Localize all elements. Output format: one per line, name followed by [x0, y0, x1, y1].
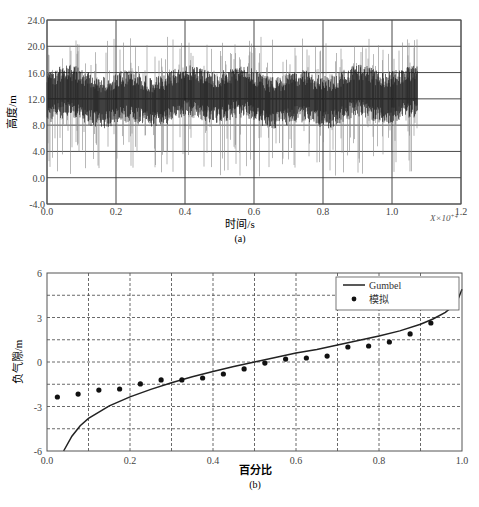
- svg-text:12.0: 12.0: [28, 94, 46, 105]
- svg-text:24.0: 24.0: [28, 15, 46, 26]
- chart-a-xscale: X×10+4: [429, 213, 458, 223]
- data-point: [387, 339, 392, 344]
- chart-a-signal-dark: [47, 65, 418, 129]
- chart-b-ylabel: 负气隙/m: [11, 339, 24, 384]
- data-point: [117, 386, 122, 391]
- svg-text:0.0: 0.0: [33, 173, 46, 184]
- svg-text:0: 0: [37, 357, 42, 368]
- data-point: [159, 377, 164, 382]
- chart-b-xlabel: 百分比: [239, 463, 272, 476]
- svg-text:0.2: 0.2: [124, 455, 137, 466]
- figure: -4.00.04.08.012.016.020.024.0 0.00.20.40…: [0, 0, 479, 507]
- svg-text:16.0: 16.0: [28, 68, 46, 79]
- data-point: [55, 394, 60, 399]
- svg-text:0.2: 0.2: [110, 206, 123, 217]
- legend-gumbel-label: Gumbel: [369, 280, 401, 291]
- svg-text:0.8: 0.8: [373, 455, 386, 466]
- data-point: [283, 356, 288, 361]
- svg-text:8.0: 8.0: [33, 120, 46, 131]
- data-point: [76, 391, 81, 396]
- legend-sim-label: 模拟: [369, 293, 389, 305]
- svg-text:3: 3: [37, 313, 42, 324]
- svg-text:6: 6: [37, 268, 42, 279]
- data-point: [179, 377, 184, 382]
- chart-a: -4.00.04.08.012.016.020.024.0 0.00.20.40…: [5, 15, 467, 245]
- svg-text:0.6: 0.6: [290, 455, 303, 466]
- data-point: [366, 343, 371, 348]
- svg-text:0.8: 0.8: [317, 206, 330, 217]
- figure-canvas: -4.00.04.08.012.016.020.024.0 0.00.20.40…: [0, 0, 479, 507]
- chart-a-x-ticks: 0.00.20.40.60.81.01.2: [41, 206, 468, 217]
- legend-dot-icon: [352, 297, 357, 302]
- svg-text:-3: -3: [34, 402, 42, 413]
- data-point: [96, 387, 101, 392]
- chart-b-y-ticks: -6-3036: [34, 268, 42, 457]
- legend: Gumbel 模拟: [336, 277, 459, 310]
- chart-a-ylabel: 高度/m: [5, 95, 18, 129]
- data-point: [345, 344, 350, 349]
- chart-a-y-ticks: -4.00.04.08.012.016.020.024.0: [28, 15, 46, 210]
- data-point: [325, 353, 330, 358]
- data-point: [221, 371, 226, 376]
- data-point: [138, 381, 143, 386]
- data-point: [200, 375, 205, 380]
- svg-text:0.0: 0.0: [41, 455, 54, 466]
- svg-text:4.0: 4.0: [33, 146, 46, 157]
- data-point: [408, 331, 413, 336]
- data-point: [428, 320, 433, 325]
- svg-text:1.0: 1.0: [456, 455, 469, 466]
- chart-b: -6-3036 0.00.20.40.60.81.0 Gumbel 模拟 负气隙…: [11, 268, 468, 491]
- svg-text:0.4: 0.4: [179, 206, 192, 217]
- svg-text:1.0: 1.0: [386, 206, 399, 217]
- chart-a-xlabel: 时间/s: [225, 218, 254, 230]
- svg-text:0.4: 0.4: [207, 455, 220, 466]
- svg-text:0.0: 0.0: [41, 206, 54, 217]
- data-point: [304, 355, 309, 360]
- chart-b-caption: (b): [249, 479, 261, 491]
- chart-a-caption: (a): [234, 233, 245, 245]
- data-point: [242, 366, 247, 371]
- data-point: [262, 360, 267, 365]
- svg-text:0.6: 0.6: [248, 206, 261, 217]
- svg-text:20.0: 20.0: [28, 41, 46, 52]
- gumbel-curve: [64, 289, 462, 451]
